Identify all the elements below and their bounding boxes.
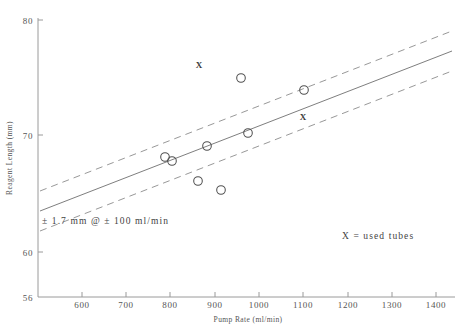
- upper-tolerance-band: [40, 31, 452, 191]
- data-point-circle: [237, 74, 246, 83]
- x-tick-label-1000: 1000: [249, 300, 269, 310]
- x-tick-label-1100: 1100: [293, 300, 313, 310]
- x-tick-label-900: 900: [207, 300, 222, 310]
- x-tick-label-800: 800: [162, 300, 177, 310]
- scatter-plot: 80 70 60 56 600 700 800 900 1000 1100 12…: [0, 0, 468, 329]
- x-tick-label-600: 600: [74, 300, 89, 310]
- y-axis-ticks: 80 70 60 56: [23, 16, 43, 303]
- x-tick-label-1400: 1400: [426, 300, 446, 310]
- x-axis-ticks: 600 700 800 900 1000 1100 1200 1300 1400: [74, 292, 446, 310]
- y-tick-label-70: 70: [23, 131, 33, 141]
- tolerance-annotation: ± 1.7 mm @ ± 100 ml/min: [42, 216, 169, 226]
- y-axis-title: Reagent Length (mm): [5, 121, 14, 195]
- y-tick-label-80: 80: [23, 16, 33, 26]
- series-used-tubes: X X: [196, 60, 307, 122]
- used-tubes-legend: X = used tubes: [342, 231, 414, 241]
- x-tick-label-700: 700: [118, 300, 133, 310]
- series-new-tubes: [161, 74, 309, 195]
- y-tick-label-56: 56: [23, 293, 33, 303]
- lower-tolerance-band: [40, 71, 452, 231]
- data-point-x-marker: X: [300, 112, 307, 122]
- x-axis-title: Pump Rate (ml/min): [214, 315, 283, 324]
- y-tick-label-60: 60: [23, 248, 33, 258]
- data-point-circle: [217, 186, 226, 195]
- x-tick-label-1200: 1200: [338, 300, 358, 310]
- regression-line: [40, 51, 452, 211]
- chart-container: 80 70 60 56 600 700 800 900 1000 1100 12…: [0, 0, 468, 329]
- x-tick-label-1300: 1300: [382, 300, 402, 310]
- data-point-x-marker: X: [196, 60, 203, 70]
- data-point-circle: [194, 177, 203, 186]
